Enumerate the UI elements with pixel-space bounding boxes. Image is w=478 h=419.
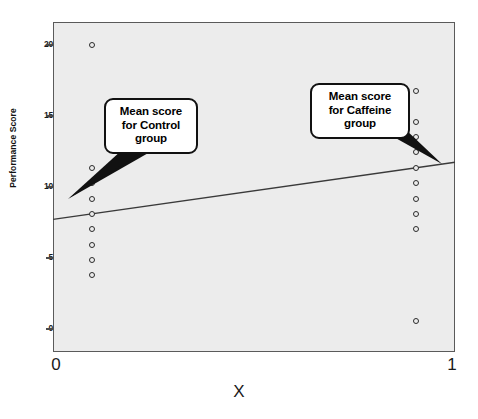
data-point	[413, 165, 419, 171]
data-point	[89, 42, 95, 48]
data-point	[413, 119, 419, 125]
ytick-mark-5	[46, 257, 53, 259]
data-point	[89, 242, 95, 248]
data-point	[89, 257, 95, 263]
data-point	[413, 196, 419, 202]
data-point	[413, 211, 419, 217]
ytick-mark-10	[46, 186, 53, 188]
x-axis-label: X	[0, 383, 478, 400]
ytick-mark-0	[46, 328, 53, 330]
scatter-chart: 20 15 10 5 0 Performance Score 0 1 X Mea…	[0, 0, 478, 419]
annotation-control-line-3: group	[135, 132, 167, 144]
y-axis-label: Performance Score	[8, 88, 18, 208]
annotation-caffeine-group: Mean score for Caffeine group	[310, 83, 410, 139]
xtick-label-1: 1	[440, 356, 464, 373]
annotation-control-line-2: for Control	[122, 119, 180, 131]
ytick-mark-15	[46, 115, 53, 117]
annotation-control-line-1: Mean score	[120, 105, 182, 117]
xtick-label-0: 0	[44, 356, 68, 373]
ytick-mark-20	[46, 44, 53, 46]
annotation-caffeine-line-2: for Caffeine	[329, 104, 392, 116]
annotation-caffeine-line-1: Mean score	[329, 90, 391, 102]
data-point	[89, 211, 95, 217]
annotation-caffeine-line-3: group	[344, 117, 376, 129]
annotation-control-group: Mean score for Control group	[104, 98, 198, 154]
data-point	[89, 196, 95, 202]
data-point	[89, 165, 95, 171]
plot-area	[53, 22, 455, 352]
